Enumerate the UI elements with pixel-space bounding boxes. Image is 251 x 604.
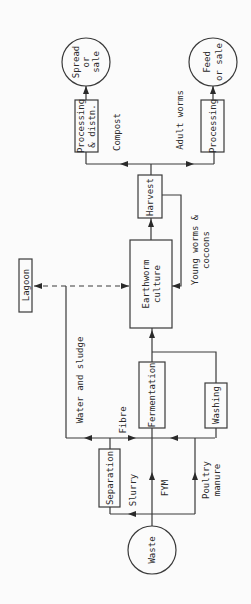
- spread-label-2: or: [81, 56, 91, 67]
- separation-label: Separation: [105, 451, 115, 505]
- culture-label-2: culture: [152, 265, 162, 303]
- spread-label-3: sale: [91, 51, 101, 73]
- culture-in-arrow: [149, 330, 155, 338]
- young-label-2: cocoons: [201, 231, 211, 269]
- water-arrow: [84, 435, 92, 441]
- adult-worms-arrow: [186, 161, 194, 167]
- lagoon-arrow: [34, 283, 42, 289]
- poultry-label-1: Poultry: [201, 460, 211, 499]
- feed-node: [189, 38, 237, 86]
- compost-arrow: [120, 161, 128, 167]
- waste-label: Waste: [147, 536, 157, 563]
- washing-return-arrow: [170, 435, 178, 441]
- slurry-arrow: [128, 511, 136, 517]
- poultry-label-2: manure: [212, 464, 222, 497]
- water-sludge-label: Water and sludge: [75, 337, 85, 424]
- washing-label: Washing: [211, 386, 221, 424]
- adult-worms-label: Adult worms: [175, 90, 185, 150]
- earthworm-process-flow-diagram: Waste FYM Slurry Poultry manure Separati…: [0, 0, 251, 604]
- fibre-label: Fibre: [118, 406, 128, 433]
- harvest-label: Harvest: [145, 178, 155, 216]
- young-label-1: Young worms &: [190, 214, 200, 285]
- harvest-in-arrow: [148, 219, 154, 227]
- fermentation-label: Fermentation: [147, 362, 157, 427]
- spread-arrow: [83, 86, 89, 94]
- feed-arrow: [210, 86, 216, 94]
- feed-label-2: or sale: [214, 43, 224, 81]
- young-worms-arrow: [172, 283, 180, 289]
- lagoon-label: Lagoon: [21, 269, 31, 302]
- fym-arrow: [149, 472, 155, 480]
- slurry-label: Slurry: [128, 473, 138, 506]
- processing-distn-label-2: & distn.: [87, 104, 97, 147]
- processing-label: Processing: [208, 99, 218, 153]
- poultry-arrow: [192, 472, 198, 480]
- earthworm-culture-node: [130, 240, 172, 328]
- feed-label-1: Feed: [202, 51, 212, 73]
- culture-label-1: Earthworm: [141, 260, 151, 309]
- fibre-arrow: [128, 435, 136, 441]
- culture-water-arrow: [121, 283, 129, 289]
- compost-label: Compost: [112, 113, 122, 151]
- spread-label-1: Spread: [71, 46, 81, 79]
- fym-label: FYM: [160, 479, 170, 496]
- processing-distn-label-1: Processing: [76, 99, 86, 153]
